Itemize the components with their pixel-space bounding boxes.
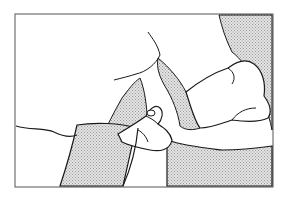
fingertip-pinch [147,110,155,116]
hands-pinch-illustration [0,0,292,198]
